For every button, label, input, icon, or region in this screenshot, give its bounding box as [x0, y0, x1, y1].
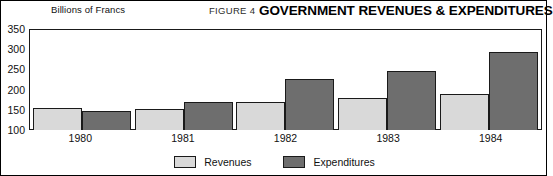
legend-label-expenditures: Expenditures [313, 156, 374, 168]
bar-expenditures-1983 [387, 71, 436, 130]
x-axis-label-1983: 1983 [338, 132, 438, 148]
y-axis: 100150200250300350 [1, 29, 27, 130]
x-axis-label-1981: 1981 [133, 132, 233, 148]
bar-expenditures-1981 [184, 102, 233, 131]
y-axis-tick-100: 100 [7, 124, 25, 136]
y-axis-tick-350: 350 [7, 23, 25, 35]
legend-label-revenues: Revenues [204, 156, 251, 168]
x-axis: 19801981198219831984 [29, 132, 542, 148]
bar-group-1983 [338, 29, 436, 130]
chart-legend: RevenuesExpenditures [1, 153, 548, 171]
bar-revenues-1981 [135, 109, 184, 130]
x-axis-label-1984: 1984 [441, 132, 541, 148]
figure-number-label: FIGURE 4 [209, 5, 255, 16]
bar-revenues-1980 [33, 108, 82, 130]
bar-revenues-1983 [338, 98, 387, 130]
legend-item-expenditures: Expenditures [283, 156, 374, 168]
y-axis-unit-label: Billions of Francs [51, 4, 125, 15]
bar-group-1981 [135, 29, 233, 130]
bar-group-1984 [440, 29, 538, 130]
legend-item-revenues: Revenues [174, 156, 251, 168]
chart-header: Billions of Francs FIGURE 4 GOVERNMENT R… [1, 3, 548, 19]
y-axis-tick-150: 150 [7, 104, 25, 116]
bar-expenditures-1982 [285, 79, 334, 130]
plot-area [29, 29, 542, 130]
legend-swatch-revenues [174, 156, 196, 168]
bar-expenditures-1984 [489, 52, 538, 130]
bar-groups [29, 29, 542, 130]
bar-revenues-1982 [236, 102, 285, 130]
bar-group-1982 [236, 29, 334, 130]
legend-swatch-expenditures [283, 156, 305, 168]
bar-revenues-1984 [440, 94, 489, 130]
bar-expenditures-1980 [82, 111, 131, 130]
x-axis-label-1980: 1980 [30, 132, 130, 148]
bar-group-1980 [33, 29, 131, 130]
y-axis-tick-300: 300 [7, 43, 25, 55]
y-axis-tick-200: 200 [7, 84, 25, 96]
chart-title: GOVERNMENT REVENUES & EXPENDITURES [259, 3, 553, 18]
x-axis-label-1982: 1982 [235, 132, 335, 148]
y-axis-tick-250: 250 [7, 63, 25, 75]
